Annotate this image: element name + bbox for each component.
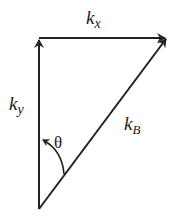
kx-label: kx (86, 7, 101, 31)
kB-label: kB (124, 113, 140, 137)
kB-vector-arrow (39, 39, 166, 209)
ky-label: ky (9, 93, 24, 117)
theta-label: θ (54, 133, 62, 152)
vector-diagram: kx ky kB θ (0, 0, 171, 223)
